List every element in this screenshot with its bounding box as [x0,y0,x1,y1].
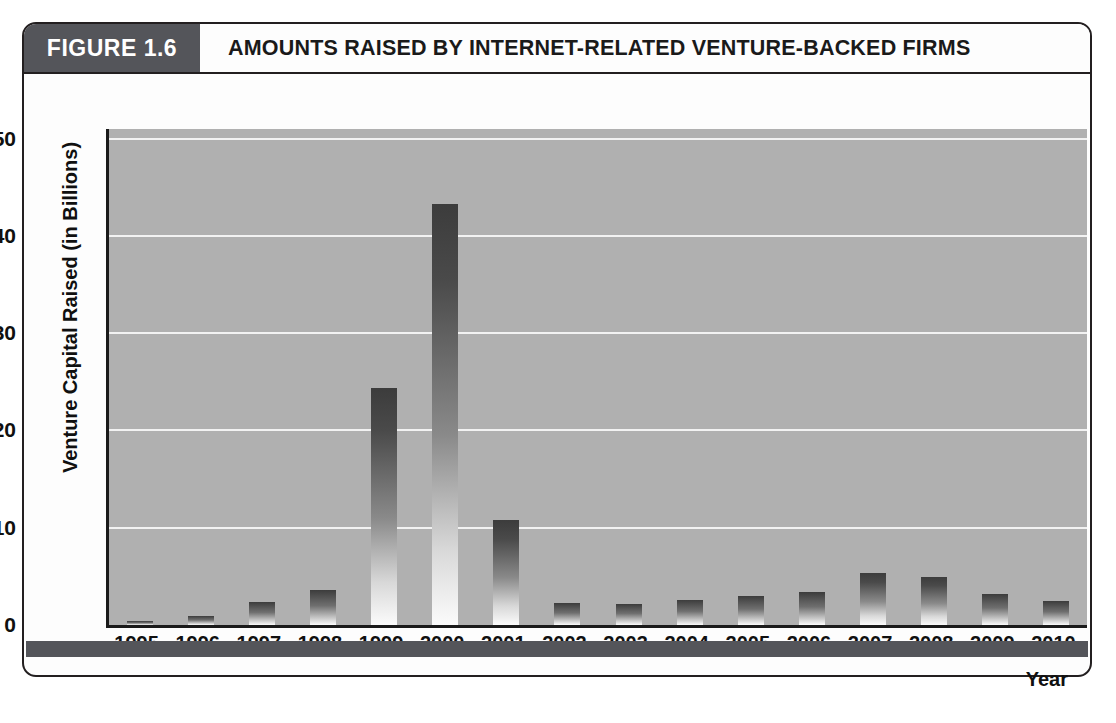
bar-2010 [1043,601,1069,625]
plot-inner [109,129,1087,625]
gridline [109,527,1087,529]
y-axis-tick-label: 40 [0,224,16,248]
bar-2004 [677,600,703,625]
bar-1996 [188,616,214,625]
y-axis-tick-label: 0 [0,613,16,637]
chart-canvas: Venture Capital Raised (in Billions) 010… [24,74,1090,659]
bar-2002 [554,603,580,625]
bar-2007 [860,573,886,625]
gridline [109,429,1087,431]
gridline [109,332,1087,334]
bar-2006 [799,592,825,625]
figure-frame: FIGURE 1.6 AMOUNTS RAISED BY INTERNET-RE… [22,22,1092,677]
gridline [109,138,1087,140]
figure-header: FIGURE 1.6 AMOUNTS RAISED BY INTERNET-RE… [24,24,1090,72]
plot-area [106,129,1087,628]
bar-2001 [493,520,519,625]
figure-title: AMOUNTS RAISED BY INTERNET-RELATED VENTU… [200,24,1090,72]
y-axis-tick-label: 30 [0,321,16,345]
bar-1999 [371,388,397,625]
bar-2000 [432,204,458,625]
bar-1997 [249,602,275,625]
y-axis-tick-label: 20 [0,418,16,442]
bar-1998 [310,590,336,625]
gridline [109,235,1087,237]
bar-2003 [616,604,642,625]
figure-footer-band [26,641,1088,657]
y-axis-title: Venture Capital Raised (in Billions) [59,78,82,538]
bar-2005 [738,596,764,625]
x-axis-title: Year [1026,668,1068,691]
bar-2008 [921,577,947,625]
y-axis-tick-label: 50 [0,127,16,151]
y-axis-tick-label: 10 [0,516,16,540]
bar-1995 [127,621,153,625]
figure-number-tag: FIGURE 1.6 [24,24,200,72]
bar-2009 [982,594,1008,625]
